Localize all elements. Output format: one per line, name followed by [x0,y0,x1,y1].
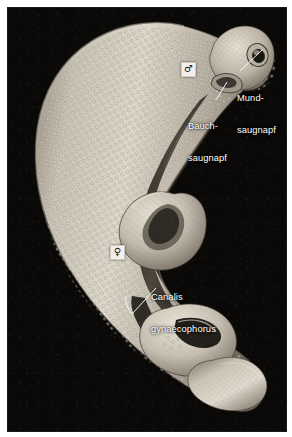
label-mundsaugnapf-line2: saugnapf [237,125,276,136]
label-canalis-line2: gynaecophorus [151,324,216,335]
female-sex-marker: ♀ [110,245,125,260]
figure-root: Mund- saugnapf Bauch- saugnapf Canalis g… [0,0,292,437]
label-bauchsaugnapf-line2: saugnapf [188,153,227,164]
label-bauchsaugnapf-line1: Bauch- [188,121,227,132]
label-canalis-line1: Canalis [151,292,216,303]
label-bauchsaugnapf: Bauch- saugnapf [188,100,227,185]
label-canalis-gynaecophorus: Canalis gynaecophorus [151,271,216,356]
electron-micrograph-plate: Mund- saugnapf Bauch- saugnapf Canalis g… [8,8,286,431]
label-mundsaugnapf: Mund- saugnapf [237,72,276,157]
male-sex-marker: ♂ [181,62,196,77]
label-mundsaugnapf-line1: Mund- [237,93,276,104]
